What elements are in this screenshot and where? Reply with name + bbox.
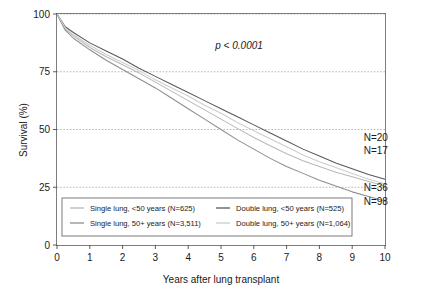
legend-item-1: Single lung, 50+ years (N=3,511)	[70, 219, 201, 228]
chart-canvas: 0255075100 012345678910 Survival (%) Yea…	[0, 0, 439, 293]
survival-chart-figure: 0255075100 012345678910 Survival (%) Yea…	[0, 0, 439, 293]
chart-legend: Single lung, <50 years (N=625)Double lun…	[62, 198, 352, 236]
legend-label-1: Single lung, 50+ years (N=3,511)	[90, 219, 201, 228]
legend-label-2: Double lung, <50 years (N=525)	[236, 204, 345, 213]
x-tick-label-4: 4	[185, 252, 191, 263]
y-tick-label-100: 100	[33, 9, 50, 20]
x-tick-label-3: 3	[153, 252, 159, 263]
y-tick-label-75: 75	[39, 66, 51, 77]
x-axis-title: Years after lung transplant	[163, 274, 280, 285]
x-tick-label-7: 7	[284, 252, 290, 263]
annotations-group: p < 0.0001N=20N=17N=36N=98	[214, 40, 388, 207]
x-tick-label-10: 10	[379, 252, 391, 263]
y-axis-ticks-group: 0255075100	[33, 9, 57, 251]
n-label-98: N=98	[364, 196, 389, 207]
n-label-17: N=17	[364, 145, 389, 156]
y-tick-label-25: 25	[39, 182, 51, 193]
y-tick-label-50: 50	[39, 124, 51, 135]
x-tick-label-1: 1	[87, 252, 93, 263]
x-tick-label-6: 6	[251, 252, 257, 263]
x-axis-ticks-group: 012345678910	[54, 245, 391, 263]
legend-item-3: Double lung, 50+ years (N=1,064)	[216, 219, 351, 228]
n-label-36: N=36	[364, 182, 389, 193]
y-tick-label-0: 0	[44, 240, 50, 251]
legend-label-0: Single lung, <50 years (N=625)	[90, 204, 196, 213]
legend-label-3: Double lung, 50+ years (N=1,064)	[236, 219, 351, 228]
p-value: p < 0.0001	[214, 40, 263, 51]
x-tick-label-2: 2	[120, 252, 126, 263]
x-tick-label-0: 0	[54, 252, 60, 263]
x-tick-label-9: 9	[349, 252, 355, 263]
n-label-20: N=20	[364, 132, 389, 143]
y-axis-title: Survival (%)	[18, 103, 29, 157]
legend-item-2: Double lung, <50 years (N=525)	[216, 204, 345, 213]
x-tick-label-8: 8	[317, 252, 323, 263]
x-tick-label-5: 5	[218, 252, 224, 263]
